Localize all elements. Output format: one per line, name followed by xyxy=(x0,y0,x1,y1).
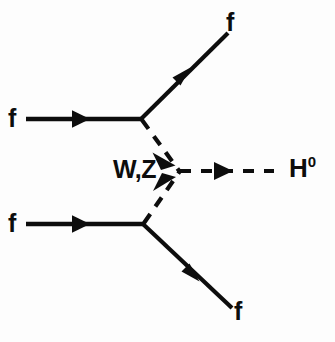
outgoing-fermion-top-line xyxy=(140,33,228,120)
label-incoming-fermion-top: f xyxy=(8,106,16,131)
feynman-diagram-canvas xyxy=(0,0,335,342)
label-higgs: H0 xyxy=(289,155,316,181)
label-incoming-fermion-bottom: f xyxy=(8,211,16,236)
higgs-propagator-dashed xyxy=(180,162,274,180)
arrowhead-higgs-propagator xyxy=(214,162,233,180)
label-boson-propagators: W,Z xyxy=(113,157,156,182)
label-outgoing-fermion-bottom: f xyxy=(234,299,242,324)
arrowhead-incoming-fermion-top xyxy=(72,110,90,128)
label-higgs-symbol: H xyxy=(289,153,308,183)
incoming-fermion-bottom-line xyxy=(26,215,144,233)
arrowhead-incoming-fermion-bottom xyxy=(72,215,90,233)
label-outgoing-fermion-top: f xyxy=(226,10,234,35)
incoming-fermion-top-line xyxy=(26,110,142,128)
label-higgs-charge: 0 xyxy=(308,153,316,170)
outgoing-fermion-bottom-line xyxy=(143,224,232,308)
feynman-diagram: f f f f W,Z H0 xyxy=(0,0,335,342)
